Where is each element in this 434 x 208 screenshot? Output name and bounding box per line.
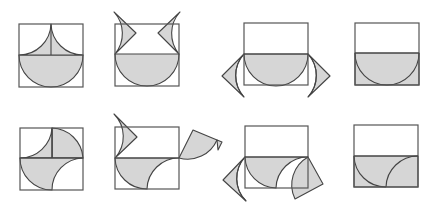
lower-curved-piece [115, 158, 179, 189]
upper-left-cusp-piece [20, 128, 52, 158]
left-cusp-piece [223, 157, 246, 201]
dissection-diagram [0, 0, 434, 208]
upper-right-quarter-piece [52, 128, 83, 158]
panel-1-4 [355, 23, 419, 85]
lower-semicircle [244, 54, 308, 86]
shaded-lower-half [355, 53, 419, 85]
partial-piece-left-edge [217, 140, 222, 150]
right-cusp-piece [158, 12, 180, 54]
left-cusp-piece [114, 12, 136, 54]
panel-2-3 [217, 126, 323, 201]
panel-1-3 [222, 23, 330, 97]
panel-2-4 [354, 125, 418, 187]
panel-2-2 [114, 114, 217, 189]
left-cusp-piece [114, 114, 137, 158]
lower-semicircle [19, 55, 83, 87]
detached-quarter-piece [179, 130, 217, 159]
lower-semicircle [115, 54, 179, 86]
panel-2-1 [20, 128, 83, 190]
panel-1-1 [19, 24, 83, 87]
right-rotated-piece [292, 157, 323, 199]
right-cusp-piece [308, 54, 330, 97]
lower-curved-piece [20, 158, 83, 190]
left-cusp-piece [222, 54, 244, 97]
panel-1-2 [114, 12, 180, 86]
